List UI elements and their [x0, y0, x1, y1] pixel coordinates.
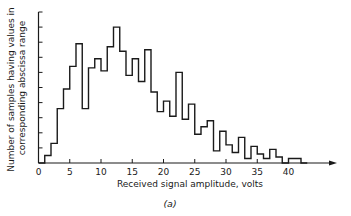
x-tick-label: 0	[36, 167, 42, 177]
y-axis-title-line-1: Number of samples having values in	[6, 7, 16, 171]
x-axis-title: Received signal amplitude, volts	[117, 179, 263, 189]
x-axis-arrow-icon	[329, 161, 337, 166]
x-tick-labels: 0510152025303540	[36, 167, 295, 177]
x-tick-label: 5	[67, 167, 73, 177]
histogram-outline	[39, 27, 308, 163]
x-tick-label: 30	[220, 167, 232, 177]
x-tick-label: 20	[158, 167, 170, 177]
x-tick-label: 35	[252, 167, 263, 177]
x-axis	[39, 159, 338, 166]
x-tick-label: 40	[283, 167, 295, 177]
figure-caption: (a)	[163, 198, 176, 209]
x-tick-label: 25	[189, 167, 200, 177]
y-axis-title: Number of samples having values in corre…	[6, 4, 27, 171]
y-axis	[39, 12, 43, 163]
y-axis-title-line-2: corresponding abscissa range	[17, 20, 27, 155]
x-tick-label: 10	[95, 167, 107, 177]
histogram-chart: 0510152025303540 Received signal amplitu…	[0, 0, 351, 216]
x-tick-label: 15	[127, 167, 138, 177]
